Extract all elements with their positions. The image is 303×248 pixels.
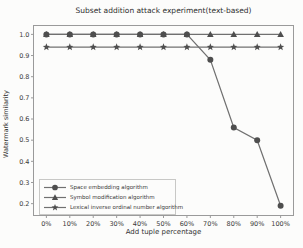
circle-marker-icon bbox=[43, 183, 67, 192]
circle-marker bbox=[67, 31, 73, 37]
y-tick-label: 0.4 bbox=[19, 158, 29, 166]
x-tick-label: 30% bbox=[109, 220, 123, 228]
x-tick-label: 70% bbox=[203, 220, 217, 228]
circle-marker bbox=[43, 31, 49, 37]
x-tick-label: 40% bbox=[133, 220, 147, 228]
star-marker bbox=[52, 203, 59, 210]
x-axis-label: Add tuple percentage bbox=[33, 228, 294, 236]
x-tick-label: 60% bbox=[180, 220, 194, 228]
legend-item-symbol-modification: Symbol modification algorithm bbox=[43, 192, 173, 202]
y-tick-label: 0.8 bbox=[19, 73, 29, 81]
legend-item-lexical-inverse: Lexical inverse ordinal number algorithm bbox=[43, 202, 173, 212]
circle-marker bbox=[254, 137, 260, 143]
legend: Space embedding algorithm Symbol modific… bbox=[39, 179, 176, 215]
x-tick-label: 50% bbox=[156, 220, 170, 228]
circle-marker bbox=[161, 31, 167, 37]
triangle-marker-icon bbox=[43, 193, 67, 202]
x-tick-label: 20% bbox=[86, 220, 100, 228]
circle-marker bbox=[184, 31, 190, 37]
x-tick-label: 80% bbox=[227, 220, 241, 228]
y-tick-label: 0.7 bbox=[19, 94, 29, 102]
legend-label: Space embedding algorithm bbox=[70, 184, 148, 190]
y-axis-label: Watermark similarity bbox=[2, 64, 12, 184]
circle-marker bbox=[231, 124, 237, 130]
circle-marker bbox=[52, 184, 58, 190]
circle-marker bbox=[137, 31, 143, 37]
circle-marker bbox=[90, 31, 96, 37]
x-tick-label: 10% bbox=[63, 220, 77, 228]
x-tick-label: 90% bbox=[250, 220, 264, 228]
y-tick-label: 0.2 bbox=[19, 200, 29, 208]
y-tick-label: 0.5 bbox=[19, 136, 29, 144]
x-tick-label: 100% bbox=[271, 220, 290, 228]
legend-label: Symbol modification algorithm bbox=[70, 194, 155, 200]
legend-item-space-embedding: Space embedding algorithm bbox=[43, 182, 173, 192]
star-marker-icon bbox=[43, 203, 67, 212]
circle-marker bbox=[114, 31, 120, 37]
circle-marker bbox=[278, 203, 284, 209]
y-tick-label: 1.0 bbox=[19, 31, 29, 39]
y-tick-label: 0.3 bbox=[19, 179, 29, 187]
y-tick-label: 0.9 bbox=[19, 52, 29, 60]
legend-label: Lexical inverse ordinal number algorithm bbox=[70, 204, 183, 210]
x-tick-label: 0% bbox=[41, 220, 51, 228]
chart-figure: Subset addition attack experiment(text-b… bbox=[0, 0, 303, 248]
y-tick-label: 0.6 bbox=[19, 115, 29, 123]
circle-marker bbox=[207, 57, 213, 63]
